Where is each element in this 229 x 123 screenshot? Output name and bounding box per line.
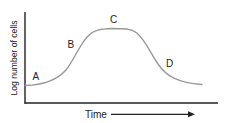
phase-label-d: D bbox=[166, 58, 173, 69]
growth-curve bbox=[25, 29, 202, 86]
y-axis-label: Log number of cells bbox=[9, 21, 19, 96]
x-axis-label: Time bbox=[85, 109, 107, 120]
time-arrow-icon bbox=[111, 111, 195, 117]
phase-label-c: C bbox=[110, 14, 117, 25]
growth-curve-chart: A B C D Log number of cells Time bbox=[0, 0, 229, 123]
phase-label-a: A bbox=[33, 71, 40, 82]
phase-label-b: B bbox=[68, 39, 75, 50]
